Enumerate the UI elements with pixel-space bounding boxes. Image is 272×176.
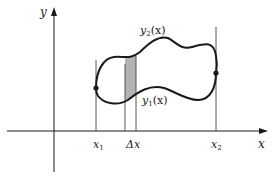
x-axis-arrow-icon xyxy=(259,128,268,134)
lower-curve-label: y1(x) xyxy=(141,94,167,108)
left-intersection-dot xyxy=(93,85,98,90)
delta-x-label: Δx xyxy=(125,138,141,151)
upper-curve-y2 xyxy=(96,37,217,88)
area-between-curves-diagram: y x y2(x) y1(x) x1 Δx x2 xyxy=(0,0,272,176)
x2-label: x2 xyxy=(211,138,222,152)
right-intersection-dot xyxy=(213,70,218,75)
x-axis-label: x xyxy=(258,137,265,151)
x1-label: x1 xyxy=(93,138,104,152)
y-axis-label: y xyxy=(39,5,47,19)
y-axis-arrow-icon xyxy=(51,7,57,16)
upper-curve-label: y2(x) xyxy=(139,24,165,38)
